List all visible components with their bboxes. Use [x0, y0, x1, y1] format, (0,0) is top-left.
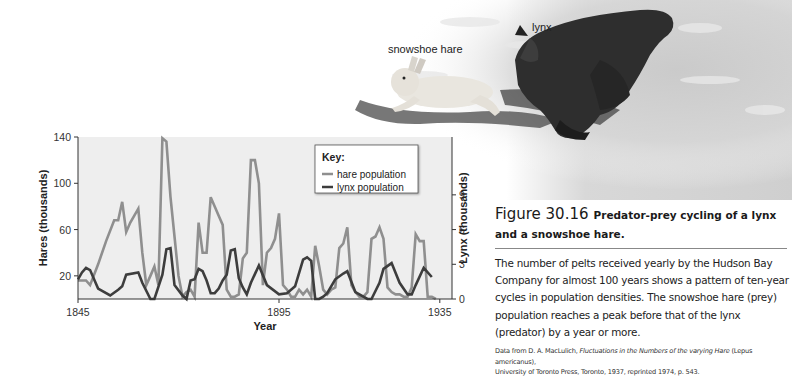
source-publisher: University of Toronto Press, Toronto, 19… — [495, 368, 699, 376]
source-prefix: Data from D. A. MacLulich, — [495, 347, 580, 355]
figure-heading: Figure 30.16 Predator-prey cycling of a … — [495, 205, 792, 243]
figure-number: Figure 30.16 — [495, 205, 589, 223]
y-tick-label: 140 — [53, 131, 71, 143]
x-tick-label: 1845 — [66, 306, 90, 318]
y-tick-label: 20 — [59, 270, 71, 282]
x-axis-label: Year — [253, 320, 277, 332]
left-y-ticks: 2060100140 — [53, 131, 78, 282]
x-ticks: 184518951935 — [66, 299, 451, 318]
legend-title: Key: — [322, 151, 345, 163]
lynx-label: lynx — [532, 21, 552, 33]
x-tick-label: 1935 — [428, 306, 452, 318]
y2-tick-label: 0 — [459, 293, 465, 305]
caption-divider — [495, 248, 787, 249]
caption-body: The number of pelts received yearly by t… — [495, 255, 792, 341]
x-tick-label: 1895 — [267, 306, 291, 318]
data-source: Data from D. A. MacLulich, Fluctuations … — [495, 346, 792, 378]
hare-label: snowshoe hare — [388, 43, 463, 55]
legend: Key: hare population lynx population — [315, 145, 418, 193]
hare-lynx-chart: 2060100140 0369 184518951935 Hares (thou… — [0, 120, 480, 346]
y2-axis-label: Lynx (thousands) — [457, 172, 469, 264]
figure-caption: Figure 30.16 Predator-prey cycling of a … — [495, 205, 792, 378]
y-axis-label: Hares (thousands) — [37, 169, 49, 266]
y-tick-label: 60 — [59, 224, 71, 236]
y-tick-label: 100 — [53, 177, 71, 189]
source-title: Fluctuations in the Numbers of the varyi… — [580, 347, 730, 355]
legend-hare-label: hare population — [337, 169, 406, 180]
legend-lynx-label: lynx population — [337, 182, 404, 193]
